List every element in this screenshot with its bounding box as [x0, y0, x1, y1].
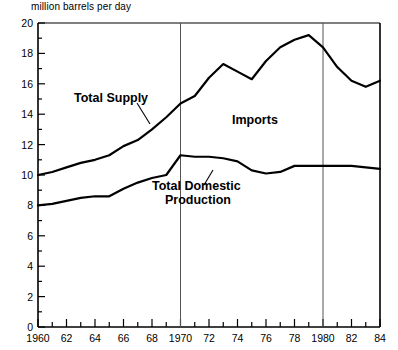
- x-tick-label: 74: [232, 332, 244, 344]
- x-tick-label: 1980: [311, 332, 335, 344]
- x-tick-label: 84: [374, 332, 386, 344]
- x-tick-label: 68: [146, 332, 158, 344]
- x-tick-label: 78: [289, 332, 301, 344]
- plot-frame: [38, 23, 380, 327]
- y-tick-label: 8: [27, 199, 33, 211]
- domestic-production-label-line1: Total Domestic: [152, 179, 241, 193]
- y-tick-label: 14: [21, 108, 33, 120]
- y-tick-label: 12: [21, 139, 33, 151]
- x-tick-label: 62: [61, 332, 73, 344]
- total-supply-label: Total Supply: [74, 91, 148, 105]
- y-tick-label: 18: [21, 47, 33, 59]
- x-tick-label: 76: [260, 332, 272, 344]
- chart-figure: million barrels per day 0246810121416182…: [0, 0, 398, 350]
- y-tick-label: 4: [27, 260, 33, 272]
- y-tick-label: 10: [21, 169, 33, 181]
- x-tick-label: 82: [346, 332, 358, 344]
- x-axis: 19606264666819707274767819808284: [26, 319, 386, 344]
- x-tick-label: 1970: [169, 332, 193, 344]
- chart-canvas: 02468101214161820 1960626466681970727476…: [0, 0, 398, 350]
- domestic-production-label-line2: Production: [165, 193, 231, 207]
- y-tick-label: 2: [27, 291, 33, 303]
- x-tick-label: 72: [203, 332, 215, 344]
- annotation-leaders: [137, 103, 213, 185]
- y-tick-label: 6: [27, 230, 33, 242]
- x-tick-label: 64: [89, 332, 101, 344]
- x-tick-label: 66: [118, 332, 130, 344]
- imports-label: Imports: [232, 113, 278, 127]
- reference-lines: [181, 23, 324, 327]
- x-tick-label: 1960: [26, 332, 50, 344]
- series-line-total-supply: [38, 35, 380, 175]
- y-tick-label: 16: [21, 78, 33, 90]
- y-tick-label: 20: [21, 17, 33, 29]
